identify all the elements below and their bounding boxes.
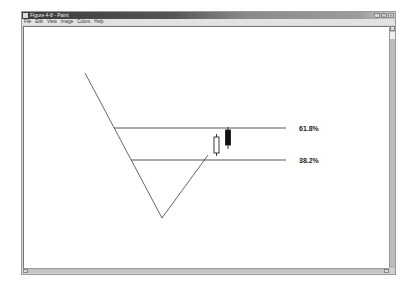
down-leg-line bbox=[85, 73, 162, 218]
up-leg-line bbox=[162, 155, 208, 218]
bullish-candlestick bbox=[214, 134, 219, 156]
fib-level-label: 38.2% bbox=[299, 157, 320, 164]
bearish-candlestick bbox=[226, 127, 231, 149]
fib-level-label: 61.8% bbox=[299, 125, 320, 132]
fibonacci-retracement-drawing: 61.8%38.2% bbox=[0, 0, 413, 289]
